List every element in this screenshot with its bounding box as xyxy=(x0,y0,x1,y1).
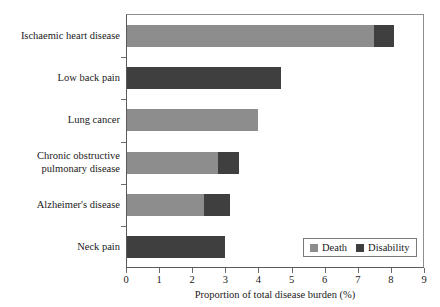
bar-segment-death xyxy=(127,109,258,131)
legend-label-disability: Disability xyxy=(368,242,409,253)
x-axis-tick-label: 7 xyxy=(347,274,369,285)
x-axis-tick xyxy=(391,268,392,273)
legend-item-disability[interactable]: Disability xyxy=(356,242,409,253)
x-axis-tick xyxy=(292,268,293,273)
bar-segment-death xyxy=(127,152,218,174)
x-axis-tick-label: 3 xyxy=(214,274,236,285)
legend-swatch-death xyxy=(310,244,318,252)
x-axis-tick xyxy=(126,268,127,273)
x-axis-tick xyxy=(424,268,425,273)
x-axis-tick xyxy=(258,268,259,273)
bar-row xyxy=(127,152,239,174)
bar-segment-disability xyxy=(127,67,281,89)
y-axis-tick xyxy=(121,57,126,58)
x-axis-tick-label: 5 xyxy=(281,274,303,285)
legend-label-death: Death xyxy=(322,242,347,253)
x-axis-tick-label: 0 xyxy=(115,274,137,285)
x-axis-tick-label: 2 xyxy=(181,274,203,285)
chart-legend: Death Disability xyxy=(303,238,417,257)
legend-swatch-disability xyxy=(356,244,364,252)
y-axis-tick xyxy=(121,99,126,100)
x-axis-tick xyxy=(159,268,160,273)
y-axis-category-labels: Ischaemic heart diseaseLow back painLung… xyxy=(0,15,120,268)
y-axis-label-line: Low back pain xyxy=(0,72,120,85)
legend-item-death[interactable]: Death xyxy=(310,242,347,253)
bar-series-layer xyxy=(127,15,424,268)
bar-row xyxy=(127,236,225,258)
x-axis-title: Proportion of total disease burden (%) xyxy=(126,289,424,300)
x-axis-tick xyxy=(325,268,326,273)
x-axis-tick-label: 8 xyxy=(380,274,402,285)
x-axis-tick xyxy=(225,268,226,273)
x-axis-tick xyxy=(192,268,193,273)
bar-segment-disability xyxy=(218,152,239,174)
y-axis-label-line: Lung cancer xyxy=(0,114,120,127)
bar-row xyxy=(127,109,258,131)
y-axis-label-line: Neck pain xyxy=(0,241,120,254)
bar-row xyxy=(127,194,230,216)
bar-segment-death xyxy=(127,25,374,47)
x-axis-tick xyxy=(358,268,359,273)
y-axis-tick xyxy=(121,184,126,185)
y-axis-label: Neck pain xyxy=(0,241,120,254)
x-axis-tick-label: 1 xyxy=(148,274,170,285)
bar-segment-disability xyxy=(127,236,225,258)
y-axis-tick xyxy=(121,142,126,143)
y-axis-label: Lung cancer xyxy=(0,114,120,127)
x-axis-tick-label: 9 xyxy=(413,274,435,285)
bar-segment-disability xyxy=(374,25,394,47)
y-axis-label: Low back pain xyxy=(0,72,120,85)
y-axis-label: Alzheimer's disease xyxy=(0,199,120,212)
y-axis-label-line: Alzheimer's disease xyxy=(0,199,120,212)
y-axis-tick xyxy=(121,226,126,227)
x-axis-tick-label: 6 xyxy=(314,274,336,285)
bar-segment-disability xyxy=(204,194,230,216)
x-axis-tick-label: 4 xyxy=(247,274,269,285)
y-axis-label-line: Chronic obstructive xyxy=(0,150,120,163)
bar-row xyxy=(127,67,281,89)
y-axis-label-line: pulmonary disease xyxy=(0,163,120,176)
bar-segment-death xyxy=(127,194,204,216)
chart-figure: Ischaemic heart diseaseLow back painLung… xyxy=(0,0,440,307)
y-axis-label: Chronic obstructivepulmonary disease xyxy=(0,150,120,175)
y-axis-label: Ischaemic heart disease xyxy=(0,30,120,43)
y-axis-label-line: Ischaemic heart disease xyxy=(0,30,120,43)
bar-row xyxy=(127,25,394,47)
